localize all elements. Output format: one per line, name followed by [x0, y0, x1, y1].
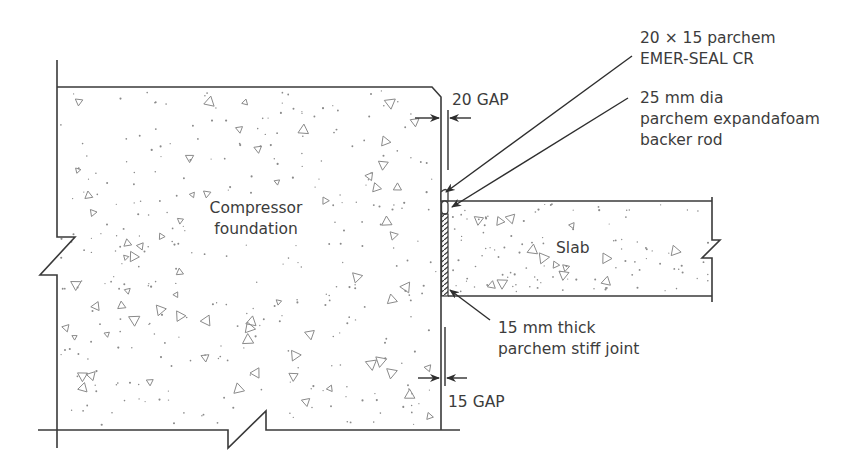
- callout-stiff-joint: 15 mm thick parchem stiff joint: [498, 318, 639, 360]
- stiff-joint-filler: [442, 214, 449, 296]
- leader-sealant: [446, 56, 632, 192]
- dimension-top-gap: [415, 110, 471, 170]
- callout-backer-rod: 25 mm dia parchem expandafoam backer rod: [640, 88, 820, 151]
- callout-sealant: 20 × 15 parchem EMER-SEAL CR: [640, 28, 776, 70]
- compressor-foundation-outline: [38, 60, 460, 448]
- dimension-label-top-gap: 20 GAP: [452, 90, 509, 111]
- leader-backer-rod: [452, 98, 628, 207]
- dimension-label-bottom-gap: 15 GAP: [448, 392, 505, 413]
- concrete-aggregate-foundation: [60, 90, 436, 426]
- dimension-bottom-gap: [418, 327, 467, 386]
- slab-label: Slab: [556, 238, 589, 259]
- joint-detail-drawing: [0, 0, 865, 473]
- backer-rod: [442, 201, 449, 214]
- compressor-foundation-label: Compressor foundation: [196, 198, 316, 240]
- isolation-joint: [441, 190, 448, 297]
- leader-stiff-joint: [450, 290, 490, 320]
